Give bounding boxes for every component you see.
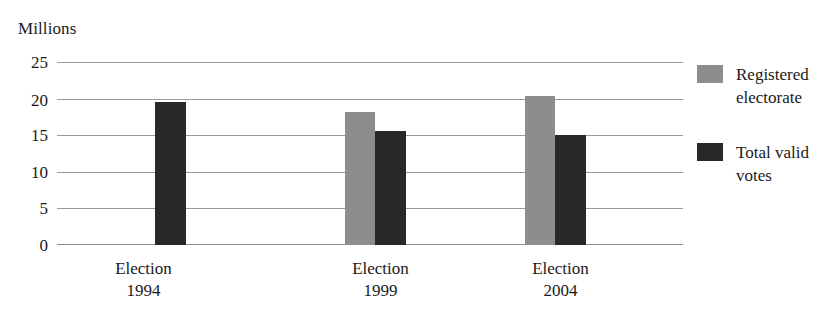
legend-label-registered-electorate-line1: Registered bbox=[736, 63, 809, 86]
legend-item-registered-electorate: Registered electorate bbox=[697, 63, 809, 109]
legend-swatch-total-valid-votes bbox=[697, 143, 723, 161]
y-tick-5: 5 bbox=[4, 200, 48, 217]
y-tick-20: 20 bbox=[4, 92, 48, 109]
category-label-1999-line2: 1999 bbox=[338, 280, 423, 302]
legend-label-total-valid-votes: Total valid votes bbox=[736, 141, 809, 187]
category-label-1999-line1: Election bbox=[338, 258, 423, 280]
category-label-1994: Election 1994 bbox=[101, 258, 186, 302]
category-label-2004-line1: Election bbox=[518, 258, 603, 280]
legend-label-registered-electorate-line2: electorate bbox=[736, 86, 809, 109]
category-label-1994-line1: Election bbox=[101, 258, 186, 280]
legend-label-registered-electorate: Registered electorate bbox=[736, 63, 809, 109]
category-label-2004: Election 2004 bbox=[518, 258, 603, 302]
bar-1999-registered-electorate bbox=[345, 112, 375, 245]
y-tick-15: 15 bbox=[4, 127, 48, 144]
category-label-2004-line2: 2004 bbox=[518, 280, 603, 302]
bar-chart: Millions 25 20 15 10 5 0 Election 1994 E… bbox=[0, 0, 834, 326]
category-label-1999: Election 1999 bbox=[338, 258, 423, 302]
y-axis-unit-label: Millions bbox=[18, 19, 76, 38]
bar-2004-registered-electorate bbox=[525, 96, 555, 245]
legend-item-total-valid-votes: Total valid votes bbox=[697, 141, 809, 187]
y-axis-tick-labels: 25 20 15 10 5 0 bbox=[0, 62, 48, 245]
plot-area bbox=[57, 62, 683, 245]
y-tick-10: 10 bbox=[4, 164, 48, 181]
legend-swatch-registered-electorate bbox=[697, 65, 723, 83]
gridline-25 bbox=[57, 62, 683, 63]
gridline-20 bbox=[57, 99, 683, 100]
bar-1999-total-valid-votes bbox=[375, 131, 406, 245]
legend-label-total-valid-votes-line1: Total valid bbox=[736, 141, 809, 164]
category-label-1994-line2: 1994 bbox=[101, 280, 186, 302]
legend-label-total-valid-votes-line2: votes bbox=[736, 164, 809, 187]
bar-1994-total-valid-votes bbox=[155, 102, 186, 245]
bar-2004-total-valid-votes bbox=[555, 135, 586, 245]
y-tick-0: 0 bbox=[4, 237, 48, 254]
y-tick-25: 25 bbox=[4, 54, 48, 71]
